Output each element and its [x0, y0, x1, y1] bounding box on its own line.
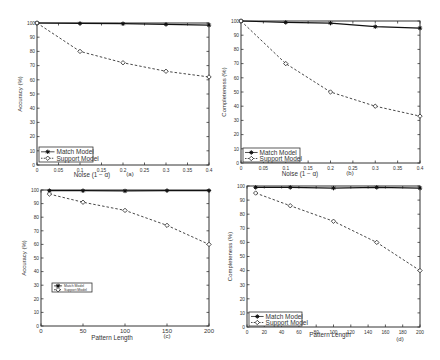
y-tick-label: 70	[30, 63, 36, 68]
x-axis-label: Noise (1 − α)	[74, 171, 110, 179]
y-tick-label: 50	[30, 92, 36, 97]
x-tick-label: 200	[416, 330, 424, 335]
x-tick-label: 50	[80, 328, 87, 334]
y-tick-label: 20	[240, 297, 246, 302]
x-tick-label: 0.3	[372, 166, 379, 171]
panel-label: (c)	[164, 333, 171, 339]
diamond-marker-icon	[164, 69, 168, 73]
y-tick-label: 50	[240, 254, 246, 259]
series-line-support-model	[256, 193, 420, 271]
star-marker-icon-dot	[122, 23, 124, 25]
panel-label: (b)	[346, 170, 353, 176]
y-tick-label: 60	[240, 240, 246, 245]
x-tick-label: 20	[262, 330, 268, 335]
legend-label: Support Model	[64, 288, 87, 292]
star-marker-icon-dot	[208, 189, 210, 191]
star-marker-icon-dot	[285, 21, 287, 23]
y-tick-label: 20	[234, 132, 240, 137]
diamond-marker-icon	[207, 75, 211, 79]
chart-panel-d: 0102030405060708090100020406080100120140…	[227, 184, 424, 342]
y-tick-label: 90	[240, 198, 246, 203]
diamond-marker-icon	[288, 204, 292, 208]
diamond-marker-icon	[418, 114, 422, 118]
star-marker-icon-dot	[255, 186, 257, 188]
x-tick-label: 0.35	[393, 166, 403, 171]
legend-label: Support Model	[57, 155, 100, 163]
plot-frame	[37, 23, 209, 165]
diamond-marker-icon	[328, 90, 332, 94]
figure-2x2-charts: 010203040506070809010000.050.10.150.20.2…	[0, 0, 440, 360]
y-tick-label: 30	[234, 118, 240, 123]
y-tick-label: 80	[30, 49, 36, 54]
diamond-marker-icon	[121, 61, 125, 65]
x-tick-label: 0	[240, 166, 243, 171]
star-marker-icon-dot	[419, 187, 421, 189]
legend: Match ModelSupport Model	[243, 148, 302, 163]
y-tick-label: 80	[234, 47, 240, 52]
y-tick-label: 60	[30, 78, 36, 83]
legend-label: Support Model	[266, 319, 309, 327]
x-axis-label: Pattern Length	[91, 334, 133, 342]
y-tick-label: 90	[234, 33, 240, 38]
x-tick-label: 0.05	[259, 166, 269, 171]
series-line-support-model	[37, 23, 209, 77]
y-tick-label: 20	[34, 297, 40, 302]
legend-star-icon-dot	[250, 151, 252, 153]
x-tick-label: 0	[246, 330, 249, 335]
y-axis-label: Accuracy (%)	[17, 76, 23, 112]
star-marker-icon-dot	[166, 189, 168, 191]
star-marker-icon-dot	[332, 187, 334, 189]
diamond-marker-icon	[253, 191, 257, 195]
y-tick-label: 90	[34, 201, 40, 206]
y-tick-label: 30	[30, 120, 36, 125]
y-tick-label: 30	[240, 283, 246, 288]
legend-star-icon-dot	[57, 285, 59, 287]
x-tick-label: 0.25	[140, 168, 150, 173]
x-axis-label: Pattern Length	[309, 331, 351, 339]
star-marker-icon-dot	[289, 186, 291, 188]
y-tick-label: 100	[237, 184, 245, 189]
x-tick-label: 200	[204, 328, 215, 334]
x-tick-label: 160	[381, 330, 389, 335]
star-marker-icon-dot	[165, 23, 167, 25]
y-axis-label: Completeness (%)	[221, 67, 227, 116]
x-tick-label: 0.2	[327, 166, 334, 171]
y-tick-label: 100	[31, 188, 39, 193]
star-marker-icon-dot	[82, 190, 84, 192]
x-tick-label: 0.3	[163, 168, 170, 173]
x-tick-label: 0.4	[206, 168, 213, 173]
y-axis-label: Accuracy (%)	[21, 240, 27, 276]
chart-panel-c: 0102030405060708090100050100150200Patter…	[21, 188, 215, 342]
chart-panel-b: 010203040506070809010000.050.10.150.20.2…	[221, 19, 424, 178]
legend: Match ModelSupport Model	[249, 312, 308, 327]
star-marker-icon-dot	[329, 22, 331, 24]
diamond-marker-icon	[331, 219, 335, 223]
series-line-support-model	[49, 194, 209, 244]
y-tick-label: 40	[30, 106, 36, 111]
series-line-support-model	[241, 21, 420, 116]
y-tick-label: 40	[240, 268, 246, 273]
plot-frame	[247, 186, 420, 327]
y-tick-label: 70	[240, 226, 246, 231]
y-tick-label: 30	[34, 283, 40, 288]
chart-panel-a: 010203040506070809010000.050.10.150.20.2…	[17, 21, 213, 179]
x-tick-label: 60	[296, 330, 302, 335]
diamond-marker-icon	[47, 192, 51, 196]
diamond-marker-icon	[207, 242, 211, 246]
y-tick-label: 40	[34, 269, 40, 274]
y-tick-label: 20	[30, 134, 36, 139]
x-tick-label: 0.35	[183, 168, 193, 173]
diamond-marker-icon	[78, 49, 82, 53]
diamond-marker-icon	[373, 104, 377, 108]
x-tick-label: 140	[364, 330, 372, 335]
x-tick-label: 40	[279, 330, 285, 335]
y-tick-label: 10	[34, 310, 40, 315]
y-tick-label: 70	[34, 229, 40, 234]
x-tick-label: 0.05	[54, 168, 64, 173]
legend: Match ModelSupport Model	[52, 283, 92, 292]
y-tick-label: 60	[34, 242, 40, 247]
x-tick-label: 0	[36, 168, 39, 173]
diamond-marker-icon	[81, 200, 85, 204]
star-marker-icon-dot	[374, 26, 376, 28]
diamond-marker-icon	[123, 208, 127, 212]
